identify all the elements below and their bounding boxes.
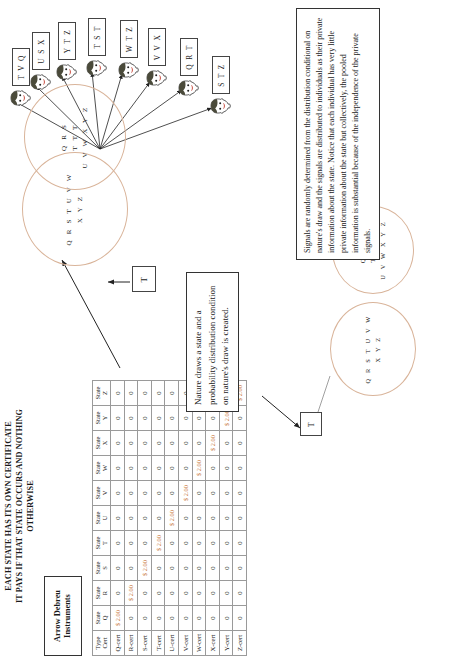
table-row: W-cert000000$ 2.00000: [192, 381, 206, 656]
person-icon: [10, 88, 32, 108]
table-header-cell-6-bottom: V: [102, 481, 109, 505]
table-cell-9-0: 0: [233, 606, 247, 631]
table-row-label-2: S-cert: [138, 631, 152, 656]
individual-3: [146, 68, 172, 88]
table-title: EACH STATE HAS ITS OWN CERTIFICATE IT PA…: [4, 356, 36, 656]
table-cell-8-3: 0: [219, 531, 233, 556]
signal-box-6: Y T Z: [58, 22, 76, 60]
table-cell-2-6: 0: [138, 456, 152, 481]
main-posterior-line-2: T T T: [70, 105, 81, 168]
signal-box-5-text: T S T: [93, 25, 102, 49]
signals-explanation-note: Signals are randomly determined from the…: [296, 8, 380, 260]
table-cell-0-4: 0: [111, 506, 125, 531]
table-row: R-cert0$ 2.0000000000: [124, 381, 138, 656]
table-row: Y-cert00000000$ 2.000: [219, 381, 233, 656]
main-posterior-ellipse: Q R S T T T U V W X Y Z: [24, 84, 126, 190]
table-cell-3-9: 0: [151, 381, 165, 406]
small-prior-line-2: X Y Z: [373, 314, 383, 383]
table-cell-4-9: 0: [165, 381, 179, 406]
table-row: X-cert0000000$ 2.0000: [206, 381, 220, 656]
individual-1: [210, 96, 236, 116]
person-icon: [178, 78, 200, 98]
table-cell-0-3: 0: [111, 531, 125, 556]
individual-8: [10, 88, 36, 108]
table-cell-4-7: 0: [165, 431, 179, 456]
small-prior-ellipse: Q R S T U V W X Y Z: [330, 302, 416, 396]
signal-box-8-text: T V Q: [17, 54, 26, 79]
table-body: Q-cert$ 2.00000000000R-cert0$ 2.00000000…: [111, 381, 247, 656]
person-icon: [118, 60, 140, 80]
table-cell-1-7: 0: [124, 431, 138, 456]
table-cell-1-3: 0: [124, 531, 138, 556]
table-title-line-3: OTHERWISE: [26, 356, 37, 656]
table-cell-3-7: 0: [151, 431, 165, 456]
table-cell-1-9: 0: [124, 381, 138, 406]
nature-draw-note: Nature draws a state and a probability d…: [186, 272, 239, 412]
individual-5: [86, 58, 112, 78]
table-cell-6-7: 0: [192, 431, 206, 456]
table-row-label-3: T-cert: [151, 631, 165, 656]
table-cell-6-1: 0: [192, 581, 206, 606]
person-icon: [146, 68, 168, 88]
table-cell-2-4: 0: [138, 506, 152, 531]
signal-box-5: T S T: [88, 18, 106, 56]
table-cell-3-8: 0: [151, 406, 165, 431]
table-cell-9-7: 0: [233, 431, 247, 456]
table-header-cell-4-bottom: T: [102, 531, 109, 555]
table-row-label-1: R-cert: [124, 631, 138, 656]
arrow-debreu-payoff-table: TypeCertStateQStateRStateSStateTStateUSt…: [92, 380, 247, 656]
table-cell-0-9: 0: [111, 381, 125, 406]
table-cell-0-5: 0: [111, 481, 125, 506]
arrow-debreu-instruments-text: Arrow Debreu Instruments: [53, 579, 74, 653]
small-state-box-label: T: [307, 421, 316, 427]
table-row-label-8: Y-cert: [219, 631, 233, 656]
table-cell-9-6: 0: [233, 456, 247, 481]
table-header-cell-2: StateR: [93, 581, 111, 606]
table-header-cell-8-bottom: X: [102, 431, 109, 455]
table-cell-1-0: 0: [124, 606, 138, 631]
table-cell-2-7: 0: [138, 431, 152, 456]
table-cell-2-3: 0: [138, 531, 152, 556]
table-cell-4-4: $ 2.00: [165, 506, 179, 531]
table-cell-5-3: 0: [178, 531, 192, 556]
person-icon: [56, 62, 78, 82]
table-header-cell-7: StateW: [93, 456, 111, 481]
nature-draw-note-text: Nature draws a state and a probability d…: [193, 286, 230, 406]
table-header-cell-3: StateS: [93, 556, 111, 581]
signal-box-7-text: U S X: [37, 38, 46, 63]
table-cell-7-7: $ 2.00: [206, 431, 220, 456]
table-cell-2-9: 0: [138, 381, 152, 406]
table-cell-7-0: 0: [206, 606, 220, 631]
table-cell-0-1: 0: [111, 581, 125, 606]
table-header-cell-0: TypeCert: [93, 631, 111, 656]
table-cell-3-3: $ 2.00: [151, 531, 165, 556]
main-posterior-line-3: U V W X Y Z: [80, 105, 91, 168]
table-header-cell-0-bottom: Cert: [102, 631, 109, 655]
table-cell-7-3: 0: [206, 531, 220, 556]
table-cell-9-4: 0: [233, 506, 247, 531]
table-header-cell-9: StateY: [93, 406, 111, 431]
table-cell-5-6: 0: [178, 456, 192, 481]
table-cell-0-0: $ 2.00: [111, 606, 125, 631]
table-cell-1-8: 0: [124, 406, 138, 431]
individual-4: [118, 60, 144, 80]
individual-6: [56, 62, 82, 82]
table-cell-5-1: 0: [178, 581, 192, 606]
table-cell-7-6: 0: [206, 456, 220, 481]
signal-box-4-text: W T Z: [125, 26, 134, 52]
table-cell-9-1: 0: [233, 581, 247, 606]
table-cell-9-3: 0: [233, 531, 247, 556]
table-cell-7-1: 0: [206, 581, 220, 606]
table-cell-3-0: 0: [151, 606, 165, 631]
table-title-line-1: EACH STATE HAS ITS OWN CERTIFICATE: [4, 356, 15, 656]
signal-box-3: V V X: [148, 28, 166, 66]
table-cell-7-4: 0: [206, 506, 220, 531]
table-cell-5-0: 0: [178, 606, 192, 631]
individual-2: [178, 78, 204, 98]
table-header-cell-1-bottom: Q: [102, 606, 109, 630]
table-cell-2-0: 0: [138, 606, 152, 631]
signal-box-4: W T Z: [120, 20, 138, 58]
table-cell-7-5: 0: [206, 481, 220, 506]
table-cell-1-4: 0: [124, 506, 138, 531]
signal-box-3-text: V V X: [153, 34, 162, 60]
